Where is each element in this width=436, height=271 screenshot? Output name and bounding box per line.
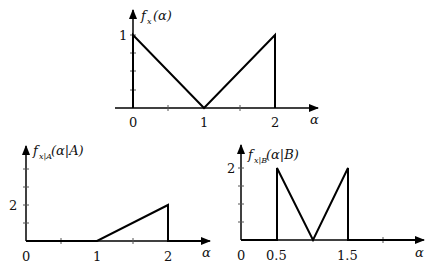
svg-text:x: x bbox=[147, 17, 152, 26]
svg-text:(α): (α) bbox=[153, 8, 172, 23]
x-axis-label: α bbox=[202, 245, 211, 260]
panel-bottom-left: 2 0 1 2 α f x|A (α|A) bbox=[9, 143, 211, 264]
x-axis-label: α bbox=[310, 112, 319, 127]
panel-top: 1 0 1 2 α f x (α) bbox=[115, 8, 319, 130]
figure: 1 0 1 2 α f x (α) 2 0 1 2 α f x|A (α|A bbox=[0, 0, 436, 271]
x-tick-label: 2 bbox=[164, 249, 172, 264]
pdf-curve bbox=[241, 168, 418, 240]
svg-text:(α|B): (α|B) bbox=[266, 147, 299, 162]
y-axis-label: f x (α) bbox=[140, 8, 172, 26]
x-tick-label: 0 bbox=[22, 249, 30, 264]
y-tick-label: 2 bbox=[227, 161, 235, 176]
pdf-curve bbox=[26, 205, 205, 241]
x-tick-label: 0 bbox=[237, 248, 245, 263]
x-tick-label: 1 bbox=[200, 115, 208, 130]
x-tick-label: 0.5 bbox=[266, 248, 287, 263]
x-tick-label: 1.5 bbox=[337, 248, 358, 263]
panel-bottom-right: 2 0 0.5 1.5 α f x|B (α|B) bbox=[227, 145, 424, 263]
x-tick-label: 1 bbox=[93, 249, 101, 264]
x-tick-label: 2 bbox=[271, 115, 279, 130]
svg-text:(α|A): (α|A) bbox=[51, 143, 84, 158]
y-axis-label: f x|A (α|A) bbox=[32, 143, 84, 161]
x-tick-label: 0 bbox=[129, 115, 137, 130]
x-axis-label: α bbox=[415, 245, 424, 260]
y-tick-label: 2 bbox=[9, 198, 17, 213]
y-axis-label: f x|B (α|B) bbox=[247, 147, 299, 165]
y-tick-label: 1 bbox=[119, 28, 127, 43]
pdf-curve bbox=[133, 35, 275, 108]
